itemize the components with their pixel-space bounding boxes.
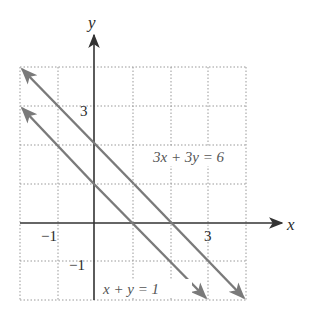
coordinate-graph: y x 3 −1 −1 3 3x + 3y = 6 x + y = 1 [0,0,310,319]
y-tick-neg1: −1 [69,257,85,273]
x-tick-3: 3 [204,228,212,244]
x-axis-label: x [286,215,295,234]
x-tick-neg1: −1 [41,228,57,244]
y-tick-3: 3 [80,103,88,119]
y-axis-label: y [86,13,96,32]
label-x-y-1: x + y = 1 [102,281,159,297]
label-3x-3y-6: 3x + 3y = 6 [152,149,225,165]
